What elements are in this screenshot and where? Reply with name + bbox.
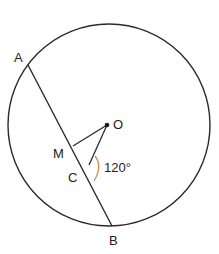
circle-diagram: A B O M C 120° (0, 0, 219, 254)
center-point-o (105, 123, 110, 128)
chord-ab (28, 65, 112, 226)
angle-arc-120 (94, 156, 99, 181)
label-o: O (113, 117, 123, 132)
angle-label: 120° (104, 160, 131, 175)
label-c: C (68, 170, 77, 185)
label-m: M (53, 146, 64, 161)
label-b: B (109, 233, 118, 248)
label-a: A (14, 50, 23, 65)
